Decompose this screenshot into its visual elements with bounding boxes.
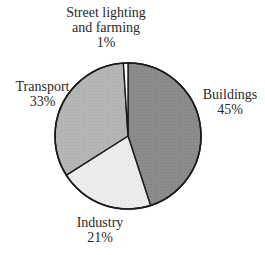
label-industry-pct: 21% <box>65 230 135 245</box>
label-industry-name: Industry <box>65 215 135 230</box>
label-buildings-name: Buildings <box>195 87 265 102</box>
label-buildings-pct: 45% <box>195 102 265 117</box>
label-industry: Industry 21% <box>65 215 135 245</box>
label-street-line2: and farming <box>56 20 156 35</box>
label-street-line1: Street lighting <box>56 5 156 20</box>
pie-slices <box>55 63 201 209</box>
label-buildings: Buildings 45% <box>195 87 265 117</box>
label-transport-name: Transport <box>10 79 75 94</box>
label-transport-pct: 33% <box>10 94 75 109</box>
label-street-lighting: Street lighting and farming 1% <box>56 5 156 50</box>
label-transport: Transport 33% <box>10 79 75 109</box>
label-street-pct: 1% <box>56 35 156 50</box>
